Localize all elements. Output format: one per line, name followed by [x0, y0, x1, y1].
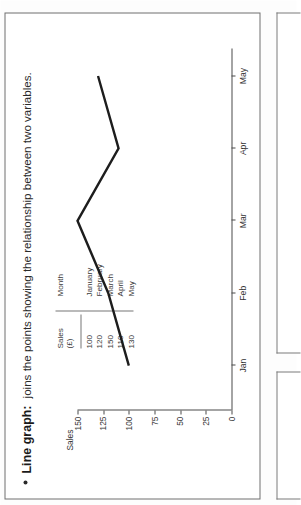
line-graph-definition: joins the points showing the relationshi… [19, 72, 32, 398]
line-series-plot [71, 26, 253, 446]
line-chart: Sales 1501251007550250 JanFebMarAprMay [71, 26, 253, 446]
line-graph-term: Line graph: [19, 405, 33, 473]
content-card: Line graph: joins the points showing the… [4, 12, 260, 499]
worksheet-page: Line graph: joins the points showing the… [0, 0, 296, 505]
lower-box-left [276, 371, 296, 499]
sales-data-table: Sales (£) Month 100 January 120 February [55, 240, 73, 348]
table-header-month: Month [55, 240, 73, 308]
rotated-page-wrapper: Line graph: joins the points showing the… [0, 0, 296, 505]
lower-box-right [276, 12, 296, 353]
bullet-heading-row: Line graph: joins the points showing the… [19, 14, 33, 484]
sales-line-series [77, 76, 128, 366]
table-header-row: Sales (£) Month [55, 240, 73, 348]
table-header-sales: Sales (£) [55, 308, 73, 348]
bullet-point-icon [23, 480, 27, 484]
